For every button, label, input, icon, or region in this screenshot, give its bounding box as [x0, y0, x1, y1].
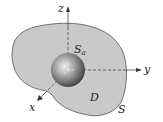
diagram-canvas — [0, 0, 163, 122]
z-arrow-icon — [66, 6, 70, 12]
region-label: D — [90, 92, 99, 103]
y-arrow-icon — [136, 68, 142, 72]
inner-surface-label: Sa — [74, 44, 86, 57]
x-axis-label: x — [29, 102, 35, 113]
z-axis-label: z — [58, 3, 64, 14]
outer-surface-label: S — [118, 104, 126, 115]
y-axis-label: y — [144, 64, 150, 75]
